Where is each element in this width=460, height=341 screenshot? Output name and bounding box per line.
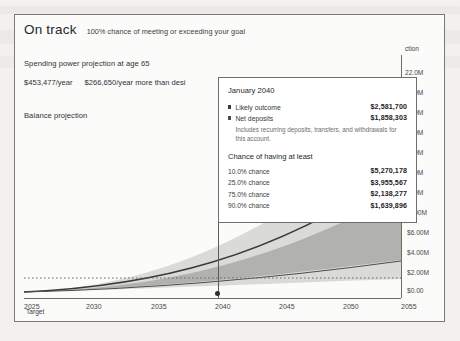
status-detail-text: 100% chance of meeting or exceeding your… [87,27,245,36]
chance-value-75: $2,138,277 [370,190,407,198]
y-tick-0: $0.00 [407,287,424,294]
spending-power-values: $453,477/year $266,650/year more than de… [24,78,185,87]
spending-comparison: $266,650/year more than desi [85,78,186,87]
chance-label-10: 10.0% chance [228,168,270,175]
y-tick-6m: $6.00M [407,229,429,236]
status-badge: On track [24,22,77,37]
chance-value-90: $1,639,896 [370,202,407,210]
spending-power-title: Spending power projection at age 65 [24,59,149,68]
x-tick-2055: 2055 [401,303,417,310]
chance-label-90: 90.0% chance [228,202,270,209]
x-tick-2045: 2045 [279,303,295,310]
tooltip-row-likely-outcome: Likely outcome $2,581,700 [228,103,407,111]
net-deposits-swatch-icon [228,116,231,119]
tooltip-label-likely-outcome: Likely outcome [235,104,280,111]
x-tick-2025: 2025 [24,303,40,310]
chance-row-75: 75.0% chance $2,138,277 [228,190,407,198]
card-header: On track 100% chance of meeting or excee… [24,22,245,37]
tooltip-value-net-deposits: $1,858,303 [370,114,407,122]
tooltip-note: Includes recurring deposits, transfers, … [236,125,408,143]
tooltip-value-likely-outcome: $2,581,700 [370,103,407,111]
tooltip-date: January 2040 [228,86,407,95]
tooltip-chance-title: Chance of having at least [228,152,407,161]
data-point-marker [215,291,220,296]
x-tick-2040: 2040 [215,303,231,310]
chance-row-90: 90.0% chance $1,639,896 [228,202,407,210]
likely-outcome-swatch-icon [228,105,231,108]
x-tick-2030: 2030 [86,303,102,310]
tooltip-label-net-deposits: Net deposits [235,115,273,122]
spending-amount: $453,477/year [24,78,73,87]
x-tick-2035: 2035 [151,303,167,310]
y-tick-2m: $2.00M [407,269,429,276]
partial-right-label: ction [405,45,419,52]
tooltip-row-net-deposits: Net deposits $1,858,303 [228,114,407,122]
chart-tooltip[interactable]: January 2040 Likely outcome $2,581,700 N… [218,77,417,223]
chance-label-75: 75.0% chance [228,191,270,198]
chance-row-10: 10.0% chance $5,270,178 [228,167,407,175]
y-tick-22m: 22.0M [405,69,423,76]
chance-row-25: 25.0% chance $3,955,567 [228,179,407,187]
chance-value-10: $5,270,178 [370,167,407,175]
projection-card: On track 100% chance of meeting or excee… [14,14,445,322]
x-axis-line [24,298,401,299]
chance-label-25: 25.0% chance [228,179,270,186]
x-tick-2050: 2050 [343,303,359,310]
balance-projection-title: Balance projection [24,111,87,120]
y-tick-4m: $4.00M [407,249,429,256]
chance-value-25: $3,955,567 [370,179,407,187]
